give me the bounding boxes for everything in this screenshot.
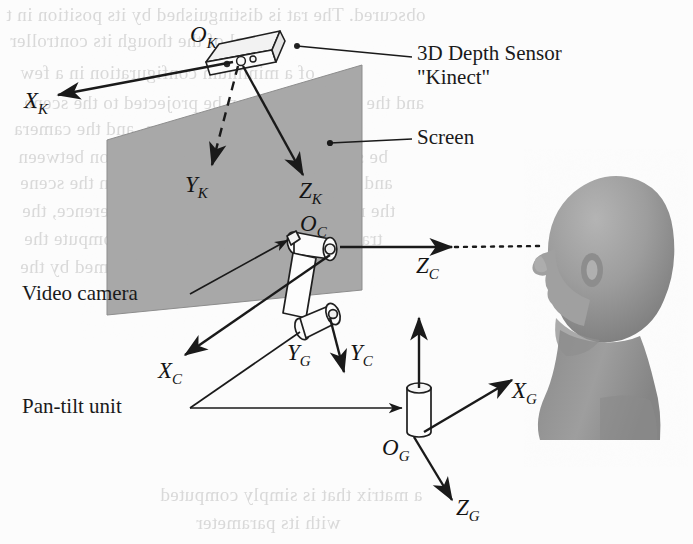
kinect-sensor-device — [206, 31, 300, 75]
camera-axis-y — [330, 318, 344, 372]
callout-video-camera-label: Video camera — [22, 281, 138, 305]
kinect-axis-x — [58, 62, 233, 95]
callout-pan-tilt-unit: Pan-tilt unit — [22, 395, 122, 419]
leader-depth-sensor — [297, 46, 412, 57]
callout-depth-sensor: 3D Depth Sensor "Kinect" — [417, 42, 562, 89]
global-axis-z — [414, 437, 452, 500]
callout-pan-tilt-unit-label: Pan-tilt unit — [22, 394, 122, 418]
axis-label-OC: OC — [300, 211, 327, 241]
axis-label-ZC: ZC — [416, 253, 439, 283]
diagram-svg — [0, 0, 693, 544]
axis-label-ZG: ZG — [456, 495, 480, 525]
callout-depth-sensor-line2: "Kinect" — [417, 66, 562, 90]
callout-screen-label: Screen — [417, 125, 474, 149]
figure-canvas: obscured. The rat is distinguished by it… — [0, 0, 693, 544]
head-model — [532, 176, 674, 440]
axis-label-YK: YK — [185, 172, 208, 202]
axis-label-XG: XG — [512, 378, 537, 408]
axis-label-ZK: ZK — [299, 178, 322, 208]
callout-screen: Screen — [417, 126, 474, 150]
global-axis-x — [424, 380, 512, 432]
axis-label-XK: XK — [24, 88, 48, 118]
screen-panel — [107, 65, 362, 315]
callout-depth-sensor-line1: 3D Depth Sensor — [417, 42, 562, 66]
axis-label-OG: OG — [382, 435, 409, 465]
axis-label-OK: OK — [190, 22, 217, 52]
axis-label-YG: YG — [287, 340, 311, 370]
axis-label-YC: YC — [350, 340, 373, 370]
axis-label-XC: XC — [158, 358, 182, 388]
camera-axis-z — [340, 246, 540, 247]
callout-video-camera: Video camera — [22, 282, 138, 306]
